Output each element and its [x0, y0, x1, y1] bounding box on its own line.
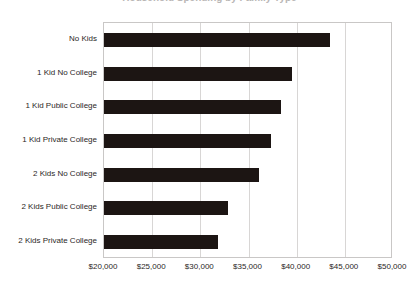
bar	[104, 100, 281, 114]
plot-area	[103, 22, 392, 258]
x-tick-label: $50,000	[378, 262, 407, 271]
x-tick-label: $45,000	[329, 262, 358, 271]
bar-chart: No Kids1 Kid No College1 Kid Public Coll…	[0, 0, 419, 292]
x-tick-label: $30,000	[185, 262, 214, 271]
category-label: No Kids	[0, 34, 97, 43]
bar	[104, 201, 228, 215]
bar-row	[104, 67, 393, 81]
category-label: 1 Kid No College	[0, 68, 97, 77]
x-tick-label: $40,000	[281, 262, 310, 271]
bar-row	[104, 201, 393, 215]
category-label: 1 Kid Private College	[0, 135, 97, 144]
x-tick-label: $20,000	[89, 262, 118, 271]
bar	[104, 235, 218, 249]
bar	[104, 67, 292, 81]
bar	[104, 168, 259, 182]
bar-row	[104, 168, 393, 182]
category-label: 1 Kid Public College	[0, 101, 97, 110]
bar	[104, 134, 271, 148]
category-label: 2 Kids No College	[0, 169, 97, 178]
bar-row	[104, 33, 393, 47]
bar-row	[104, 100, 393, 114]
bar-row	[104, 235, 393, 249]
bar-row	[104, 134, 393, 148]
x-tick-label: $35,000	[233, 262, 262, 271]
category-label: 2 Kids Private College	[0, 236, 97, 245]
x-tick-label: $25,000	[137, 262, 166, 271]
bar	[104, 33, 330, 47]
category-label: 2 Kids Public College	[0, 202, 97, 211]
